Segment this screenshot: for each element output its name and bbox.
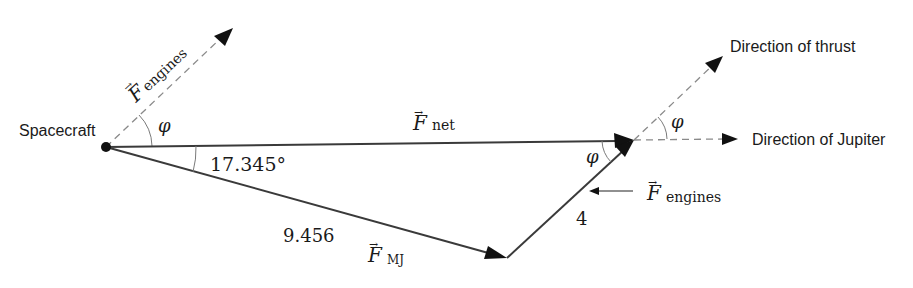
- phi-arc-triangle: [602, 141, 611, 162]
- f-engines-lower-label: F → engines: [646, 176, 721, 205]
- direction-of-jupiter-label: Direction of Jupiter: [752, 131, 886, 148]
- direction-of-jupiter-dashed-vector: [634, 133, 738, 145]
- arrowhead-icon: [589, 187, 599, 195]
- f-net-label: F → net: [412, 106, 455, 135]
- vector-mark: →: [414, 106, 423, 119]
- spacecraft-point: [101, 142, 111, 152]
- angle-arc-17: [193, 146, 196, 172]
- arrowhead-icon: [722, 133, 738, 145]
- phi-thrust-label: φ: [671, 111, 684, 132]
- arrowhead-icon: [484, 246, 507, 259]
- f-engines-rotated-label: F → engines: [119, 37, 192, 107]
- magnitude-engines-label: 4: [576, 208, 587, 229]
- direction-of-thrust-label: Direction of thrust: [730, 38, 856, 55]
- f-mj-label: F → MJ: [367, 238, 404, 267]
- f-net-vector: [106, 133, 634, 148]
- phi-arc-spacecraft: [139, 115, 152, 146]
- magnitude-mj-label: 9.456: [283, 225, 335, 246]
- subscript: MJ: [387, 253, 404, 267]
- phi-spacecraft-label: φ: [158, 115, 171, 136]
- phi-arc-thrust: [658, 117, 667, 139]
- vector-mark: →: [369, 238, 378, 251]
- subscript: net: [432, 117, 455, 133]
- f-engines-vector: [507, 140, 634, 258]
- subscript: engines: [666, 189, 721, 205]
- arrowhead-icon: [214, 28, 233, 46]
- spacecraft-label: Spacecraft: [19, 122, 96, 139]
- subscript: engines: [139, 45, 190, 94]
- f-engines-pointer-arrow: [589, 187, 633, 195]
- vector-mark: →: [648, 176, 657, 189]
- phi-triangle-label: φ: [586, 146, 599, 167]
- force-vector-diagram: Spacecraft Direction of thrust Direction…: [0, 0, 913, 288]
- angle-17-label: 17.345°: [210, 153, 286, 175]
